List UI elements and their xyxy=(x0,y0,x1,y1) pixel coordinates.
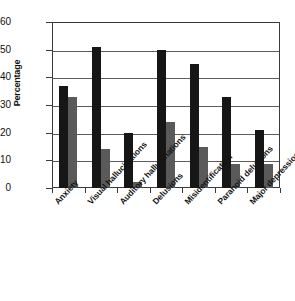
x-axis-category-label: Delusions xyxy=(150,171,184,207)
x-axis-category-labels: AnxietyVisual hallucinationsAuditory hal… xyxy=(0,0,295,301)
x-axis-category-label: Anxiety xyxy=(52,178,80,207)
x-axis-category-label: Visual hallucinations xyxy=(85,139,148,206)
bar-chart: Percentage 0102030405060 AnxietyVisual h… xyxy=(0,0,295,301)
